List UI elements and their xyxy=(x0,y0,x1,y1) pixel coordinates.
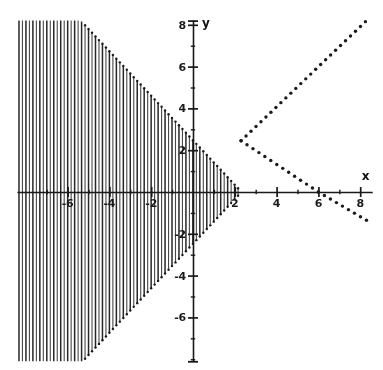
y-tick-label: -2 xyxy=(174,228,186,239)
y-tick-label: -6 xyxy=(174,312,186,323)
y-tick-label: 8 xyxy=(179,19,186,30)
y-tick-label: -4 xyxy=(174,270,186,281)
y-tick-label: 6 xyxy=(179,61,186,72)
x-tick-label: 2 xyxy=(231,198,238,209)
y-axis-label: y xyxy=(202,17,210,29)
x-tick-label: -4 xyxy=(103,198,115,209)
x-tick-label: 6 xyxy=(315,198,322,209)
math-plot-figure: y x 8642-2-4-6-6-4-22468 xyxy=(0,0,383,370)
y-tick-label: 2 xyxy=(179,145,186,156)
x-axis-label: x xyxy=(362,170,370,182)
plot-drawing-canvas xyxy=(0,0,383,370)
y-tick-label: 4 xyxy=(179,103,186,114)
x-tick-label: -2 xyxy=(145,198,157,209)
x-tick-label: -6 xyxy=(62,198,74,209)
x-tick-label: 8 xyxy=(356,198,363,209)
x-tick-label: 4 xyxy=(273,198,280,209)
